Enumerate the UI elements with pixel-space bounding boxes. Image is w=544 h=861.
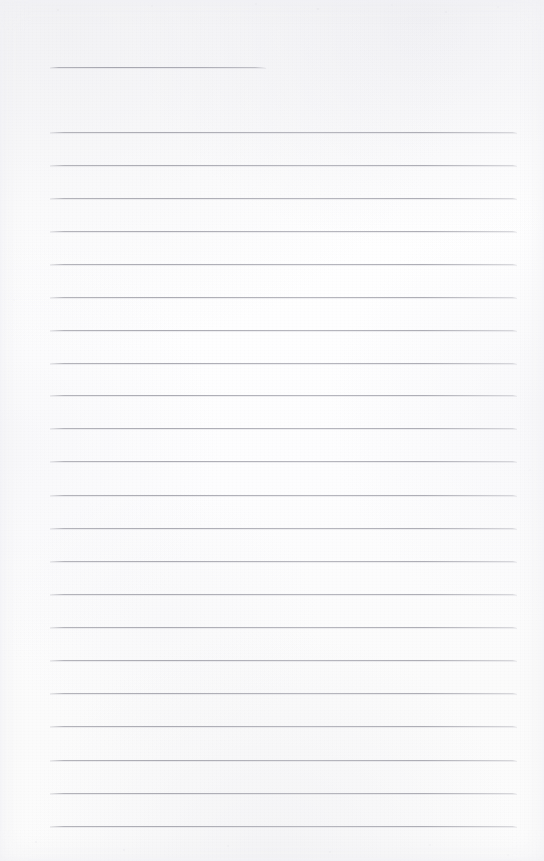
scanned-page — [0, 0, 544, 861]
paper-background — [0, 0, 544, 861]
